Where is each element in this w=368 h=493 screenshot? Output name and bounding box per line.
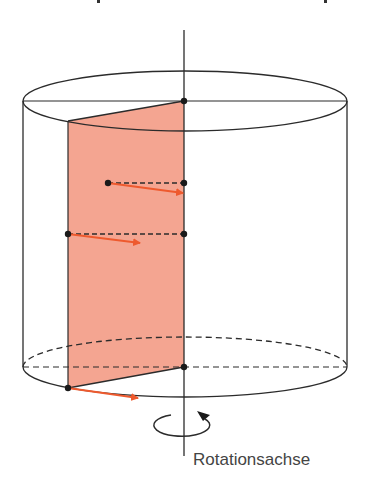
upper-axis-point [181,180,187,186]
rotation-axis-label: Rotationsachse [193,450,310,469]
top-axis-point [181,98,187,104]
upper-inner-point [105,180,111,186]
cropped-heading-fragment-left [97,0,100,3]
rotating-cylinder-diagram: Rotationsachse [0,0,368,493]
cropped-heading-fragment-right [324,0,327,3]
middle-axis-point [181,231,187,237]
bottom-velocity-arrow [68,388,138,398]
bottom-axis-point [181,364,187,370]
rotation-arrowhead-icon [197,411,210,421]
middle-edge-point [65,231,71,237]
bottom-edge-point [65,385,71,391]
rotating-plane [68,101,184,388]
